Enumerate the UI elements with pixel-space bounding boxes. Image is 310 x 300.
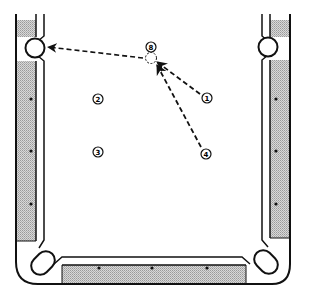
ball-4: 4 <box>201 149 211 159</box>
ball-2-label: 2 <box>96 96 101 104</box>
pocket-bottom-left <box>27 247 58 278</box>
pocket-top-right <box>259 38 278 57</box>
table-outer-frame <box>16 14 290 284</box>
bottom-cushion <box>54 257 250 264</box>
ball-4-label: 4 <box>204 151 209 159</box>
ball-8-label: 8 <box>149 44 154 52</box>
path-8-to-pocket <box>48 47 143 58</box>
ball-8: 8 <box>146 42 156 52</box>
pocket-bottom-right <box>250 246 281 277</box>
ball-3: 3 <box>93 147 103 157</box>
right-rail <box>270 60 289 238</box>
diamond-markers <box>29 97 277 269</box>
ball-3-label: 3 <box>96 149 101 157</box>
pool-table-diagram: 8 2 3 1 4 <box>0 0 310 300</box>
left-rail-upper <box>17 20 36 37</box>
ball-1: 1 <box>202 93 212 103</box>
left-rail <box>17 61 36 241</box>
right-rail-upper <box>270 20 289 37</box>
ball-1-label: 1 <box>205 95 210 103</box>
bottom-rail <box>62 265 246 283</box>
ball-2: 2 <box>93 94 103 104</box>
path-1-to-ghost <box>157 62 200 94</box>
pocket-top-left <box>26 39 45 58</box>
ghost-ball <box>146 53 157 64</box>
